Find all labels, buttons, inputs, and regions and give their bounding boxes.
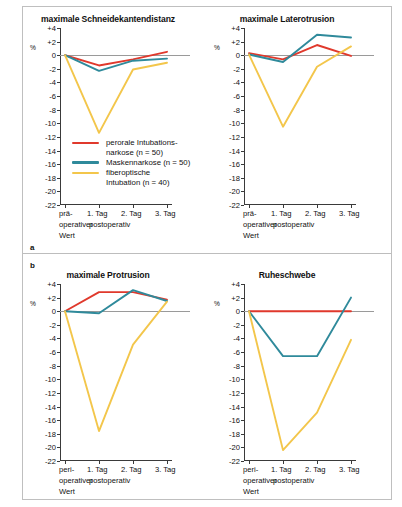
- x-tick-label: 1. Tag: [271, 209, 292, 218]
- chart-laterotrusion: maximale Laterotrusion+4+20-2-4-6-8-10-1…: [212, 14, 372, 244]
- y-tick-label: -8: [233, 105, 240, 114]
- y-tick-label: -14: [229, 402, 240, 411]
- y-tick-label: -8: [49, 361, 56, 370]
- legend-label: fiberoptische: [106, 168, 190, 178]
- x-tick: [351, 461, 352, 464]
- plot-area: +4+20-2-4-6-8-10-12-14-16-18-20-22%: [244, 28, 356, 205]
- series-layer: [60, 284, 172, 461]
- panel-letter-a: a: [30, 243, 34, 252]
- y-tick-label: -22: [45, 457, 56, 466]
- y-tick-label: -10: [229, 375, 240, 384]
- y-tick: [57, 461, 60, 462]
- y-tick-label: -18: [45, 173, 56, 182]
- y-tick-label: -16: [229, 160, 240, 169]
- x-axis-label: postoperativ: [89, 220, 130, 229]
- chart-title: maximale Laterotrusion: [212, 14, 362, 24]
- x-caption-line3: Wert: [59, 231, 75, 240]
- x-tick-label: 2. Tag: [121, 209, 142, 218]
- legend-label-cont: Intubation (n = 40): [106, 178, 190, 188]
- y-tick-label: -16: [45, 160, 56, 169]
- x-caption-line2: operativer: [243, 476, 277, 485]
- y-tick-label: -18: [229, 429, 240, 438]
- y-tick-label: -16: [229, 416, 240, 425]
- figure-root: a b maximale Schneidekantendistanz+4+20-…: [0, 0, 402, 507]
- chart-title: maximale Schneidekantendistanz: [28, 14, 188, 24]
- y-tick-label: -12: [45, 388, 56, 397]
- y-tick-label: -12: [229, 388, 240, 397]
- x-caption-line3: Wert: [59, 487, 75, 496]
- x-tick-label: 1. Tag: [271, 465, 292, 474]
- legend-swatch: [72, 172, 99, 174]
- panel-divider: [23, 253, 391, 254]
- y-tick-label: -14: [45, 402, 56, 411]
- legend-item-maskennarkose: Maskennarkose (n = 50): [72, 158, 190, 168]
- y-tick-label: -6: [49, 92, 56, 101]
- y-tick-label: -2: [233, 320, 240, 329]
- y-tick-label: -8: [233, 361, 240, 370]
- chart-ruheschwebe: Ruheschwebe+4+20-2-4-6-8-10-12-14-16-18-…: [212, 270, 372, 500]
- x-tick: [167, 205, 168, 208]
- y-tick-label: -10: [45, 375, 56, 384]
- x-tick-label: 2. Tag: [305, 465, 326, 474]
- y-tick: [57, 205, 60, 206]
- panel-letter-b: b: [30, 261, 35, 270]
- y-tick-label: -14: [45, 146, 56, 155]
- y-tick-label: -18: [229, 173, 240, 182]
- y-tick-label: +2: [231, 37, 240, 46]
- x-tick: [133, 205, 134, 208]
- y-tick-label: -2: [233, 64, 240, 73]
- y-tick-label: -20: [45, 187, 56, 196]
- y-tick-label: -14: [229, 146, 240, 155]
- x-caption-line1: peri-: [243, 465, 258, 474]
- x-caption-line3: Wert: [243, 487, 259, 496]
- series-layer: [244, 28, 356, 205]
- y-tick-label: -6: [233, 92, 240, 101]
- y-tick-label: -4: [233, 334, 240, 343]
- y-tick-label: -12: [45, 132, 56, 141]
- x-tick: [351, 205, 352, 208]
- x-tick: [317, 461, 318, 464]
- y-tick-label: 0: [52, 51, 56, 60]
- y-tick-label: +4: [231, 24, 240, 33]
- chart-title: Ruheschwebe: [212, 270, 362, 280]
- x-caption-line2: operativer: [243, 220, 277, 229]
- plot-area: +4+20-2-4-6-8-10-12-14-16-18-20-22%: [60, 284, 172, 461]
- y-tick-label: -20: [229, 443, 240, 452]
- y-tick-label: -22: [229, 457, 240, 466]
- y-tick-label: -20: [45, 443, 56, 452]
- y-tick-label: 0: [236, 307, 240, 316]
- y-tick-label: -2: [49, 320, 56, 329]
- x-tick: [133, 461, 134, 464]
- x-tick-label: 1. Tag: [87, 209, 108, 218]
- y-axis-label: %: [30, 300, 36, 307]
- y-tick-label: +4: [47, 24, 56, 33]
- series-line: [65, 55, 167, 133]
- y-tick-label: -8: [49, 105, 56, 114]
- x-tick-label: 2. Tag: [305, 209, 326, 218]
- x-tick: [99, 205, 100, 208]
- x-tick: [283, 205, 284, 208]
- legend-item-perorale-intubationsnarkose: perorale Intubations-narkose (n = 50): [72, 138, 190, 157]
- y-tick-label: +4: [231, 280, 240, 289]
- y-axis-label: %: [214, 44, 220, 51]
- y-tick-label: +2: [231, 293, 240, 302]
- legend-label: perorale Intubations-: [106, 138, 190, 148]
- x-caption-line2: operativer: [59, 476, 93, 485]
- x-tick-label: 3. Tag: [339, 465, 360, 474]
- y-tick-label: -18: [45, 429, 56, 438]
- x-tick: [167, 461, 168, 464]
- y-tick-label: +2: [47, 293, 56, 302]
- legend-label-cont: narkose (n = 50): [106, 148, 190, 158]
- legend-swatch: [72, 161, 99, 163]
- x-caption-line1: prä-: [243, 209, 257, 218]
- y-tick-label: -22: [229, 201, 240, 210]
- y-axis-label: %: [214, 300, 220, 307]
- y-tick-label: -16: [45, 416, 56, 425]
- y-tick: [241, 205, 244, 206]
- x-caption-line1: prä-: [59, 209, 73, 218]
- y-tick-label: -4: [49, 78, 56, 87]
- plot-area: +4+20-2-4-6-8-10-12-14-16-18-20-22%: [244, 284, 356, 461]
- legend-label: Maskennarkose (n = 50): [106, 158, 190, 168]
- x-tick: [65, 205, 66, 208]
- y-tick-label: 0: [52, 307, 56, 316]
